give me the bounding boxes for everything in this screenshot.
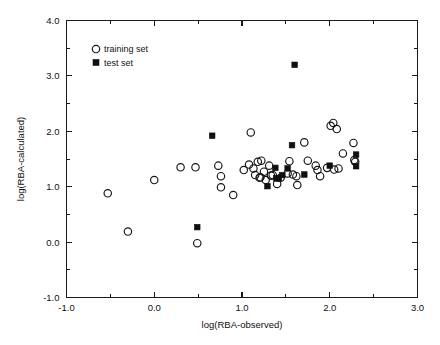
data-point-test xyxy=(289,142,295,148)
data-point-test xyxy=(265,183,271,189)
data-point-test xyxy=(327,163,333,169)
y-tick-label: 3.0 xyxy=(46,70,59,81)
x-tick-label: 2.0 xyxy=(323,302,336,313)
y-tick-label: 1.0 xyxy=(46,181,59,192)
legend-marker-test-set xyxy=(93,60,99,66)
y-tick-label: 0.0 xyxy=(46,237,59,248)
data-point-test xyxy=(280,172,286,178)
x-tick-label: 1.0 xyxy=(235,302,248,313)
x-tick-label: 0.0 xyxy=(148,302,161,313)
y-tick-label: -1.0 xyxy=(43,292,59,303)
scatter-plot: -1.00.01.02.03.0 -1.00.01.02.03.04.0 log… xyxy=(0,0,440,345)
data-point-test xyxy=(302,172,308,178)
x-tick-label: -1.0 xyxy=(58,302,74,313)
data-point-test xyxy=(353,163,359,169)
data-point-test xyxy=(209,133,215,139)
data-point-test xyxy=(285,166,291,172)
y-tick-label: 2.0 xyxy=(46,126,59,137)
chart-figure: -1.00.01.02.03.0 -1.00.01.02.03.04.0 log… xyxy=(0,0,440,345)
data-point-test xyxy=(194,224,200,230)
x-tick-label: 3.0 xyxy=(411,302,424,313)
data-point-test xyxy=(353,152,359,158)
x-axis-title: log(RBA-observed) xyxy=(202,319,283,330)
legend-label: training set xyxy=(104,44,149,54)
y-axis-title: log(RBA-calculated) xyxy=(15,117,26,201)
legend-label: test set xyxy=(104,58,134,68)
y-tick-label: 4.0 xyxy=(46,15,59,26)
data-point-test xyxy=(292,62,298,68)
data-point-test xyxy=(273,165,279,171)
